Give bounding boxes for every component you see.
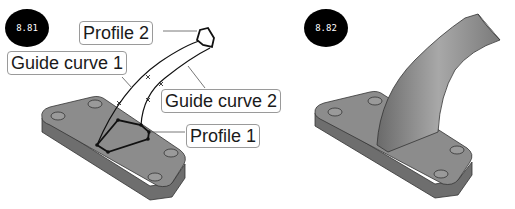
figure-number-badge: 8.82: [304, 9, 348, 47]
figure-8-82: 8.82: [280, 0, 515, 209]
figure-number-badge: 8.81: [5, 9, 49, 47]
callout-profile-1: Profile 1: [186, 124, 260, 148]
callout-profile-2: Profile 2: [79, 21, 153, 45]
callout-guide-curve-2: Guide curve 2: [161, 89, 281, 113]
callout-guide-curve-1: Guide curve 1: [7, 51, 127, 75]
figure-8-81: 8.81 Profile 2 Guide curve 1 Guide curve…: [0, 0, 280, 209]
